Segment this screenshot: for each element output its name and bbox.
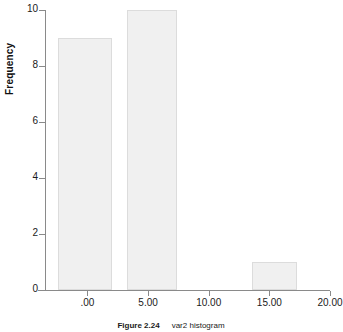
x-axis-tick (87, 291, 88, 296)
y-axis-tick (39, 290, 45, 291)
y-axis-tick-label: 0 (14, 283, 38, 294)
x-axis-tick (269, 291, 270, 296)
x-axis-tick-label: 20.00 (317, 297, 342, 308)
figure-caption: Figure 2.24var2 histogram (0, 321, 342, 330)
y-axis-line (45, 10, 46, 290)
histogram-bar (252, 262, 297, 290)
y-axis-tick-label: 10 (14, 3, 38, 14)
histogram-bar (127, 10, 177, 290)
histogram-bar (58, 38, 111, 290)
y-axis-tick-label: 8 (14, 59, 38, 70)
x-axis-tick-label: 15.00 (257, 297, 282, 308)
y-axis-tick (39, 178, 45, 179)
x-axis-tick (148, 291, 149, 296)
x-axis-tick-label: 10.00 (196, 297, 221, 308)
y-axis-tick-label: 6 (14, 115, 38, 126)
y-axis-tick-label: 2 (14, 227, 38, 238)
x-axis-tick (209, 291, 210, 296)
y-axis-tick (39, 234, 45, 235)
x-axis-line (38, 290, 330, 291)
caption-figure-number: Figure 2.24 (117, 321, 159, 330)
x-axis-tick (330, 291, 331, 296)
y-axis-tick (39, 122, 45, 123)
caption-description: var2 histogram (172, 321, 225, 330)
y-axis-tick (39, 66, 45, 67)
x-axis-tick-label: 5.00 (138, 297, 157, 308)
y-axis-tick (39, 10, 45, 11)
y-axis-tick-label: 4 (14, 171, 38, 182)
x-axis-tick-label: .00 (80, 297, 94, 308)
